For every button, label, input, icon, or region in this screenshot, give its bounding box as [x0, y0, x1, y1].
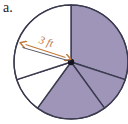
- figure-container: a.: [0, 0, 128, 124]
- center-dot: [68, 59, 74, 65]
- spinner-diagram: 3 ft: [0, 0, 128, 124]
